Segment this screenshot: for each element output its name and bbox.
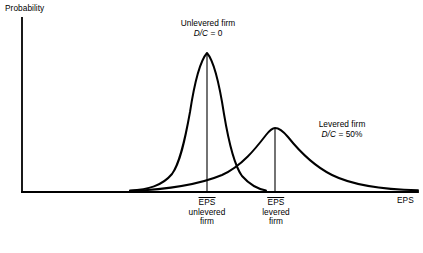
x-tick-levered-eps-text: EPS: [268, 197, 285, 207]
levered-dc-value: = 50%: [336, 129, 362, 139]
unlevered-firm-annotation-line2: D/C = 0: [181, 29, 236, 39]
x-tick-levered-bottom: firm: [262, 217, 290, 227]
y-axis-title: Probability: [5, 4, 44, 14]
unlevered-dc-value: = 0: [208, 28, 222, 38]
x-tick-label-levered: EPS levered firm: [262, 197, 290, 227]
levered-firm-annotation-line2: D/C = 50%: [319, 130, 366, 140]
levered-dc-symbol: D/C: [322, 129, 336, 139]
unlevered-firm-annotation: Unlevered firm D/C = 0: [181, 19, 236, 38]
chart-figure: Probability EPS Unlevered firm D/C = 0 L…: [0, 0, 423, 253]
x-axis-title: EPS: [397, 196, 414, 206]
x-tick-levered-eps: EPS: [262, 197, 290, 208]
unlevered-dc-symbol: D/C: [194, 28, 208, 38]
levered-firm-annotation: Levered firm D/C = 50%: [319, 120, 366, 139]
x-tick-unlevered-bottom: firm: [189, 217, 226, 227]
x-tick-unlevered-eps: EPS: [189, 197, 226, 208]
x-tick-unlevered-eps-text: EPS: [199, 197, 216, 207]
x-tick-label-unlevered: EPS unlevered firm: [189, 197, 226, 227]
unlevered-firm-curve: [130, 53, 266, 191]
levered-firm-curve: [130, 128, 418, 191]
